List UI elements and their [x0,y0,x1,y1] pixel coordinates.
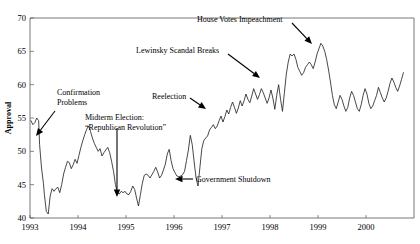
x-tick-label: 1993 [22,222,39,232]
annotation-label-reelection: Reelection [152,92,186,101]
annotation-leader-reelection [190,98,200,105]
y-axis-ticks: 40455055606570 [18,13,35,223]
annotation-label-lewinsky-scandal: Lewinsky Scandal Breaks [136,46,219,55]
x-tick-label: 2000 [358,222,375,232]
annotation-label-government-shutdown: Government Shutdown [196,175,270,184]
annotation-government-shutdown: Government Shutdown [175,175,270,184]
x-tick-label: 1998 [262,222,279,232]
annotation-lewinsky-scandal: Lewinsky Scandal Breaks [136,46,260,78]
y-tick-label: 55 [18,113,27,123]
annotation-leader-house-votes-impeachment [292,23,307,39]
annotation-midterm-election: Midterm Election:“Republican Revolution” [85,113,167,197]
y-tick-label: 70 [18,13,27,23]
annotation-arrowhead-midterm-election [114,190,120,198]
approval-chart: 40455055606570 1993199419951996199719981… [0,0,420,244]
annotations-layer: ConfirmationProblemsMidterm Election:“Re… [36,15,312,197]
annotation-arrowhead-reelection [198,102,206,109]
x-tick-label: 1999 [310,222,327,232]
annotation-house-votes-impeachment: House Votes Impeachment [197,15,312,44]
x-tick-label: 1994 [70,222,88,232]
annotation-leader-lewinsky-scandal [228,54,254,74]
y-tick-label: 65 [18,46,27,56]
annotation-label-midterm-election: Midterm Election:“Republican Revolution” [85,113,167,132]
x-tick-label: 1996 [166,222,183,232]
x-tick-label: 1997 [214,222,231,232]
annotation-reelection: Reelection [152,92,206,109]
y-axis-label: Approval [4,101,13,134]
y-tick-label: 45 [18,180,27,190]
x-axis-ticks: 19931994199519961997199819992000 [22,215,375,232]
y-axis-title: Approval [4,101,13,134]
x-tick-label: 1995 [118,222,135,232]
y-tick-label: 50 [18,146,27,156]
annotation-leader-confirmation-problems [41,111,55,130]
chart-canvas: 40455055606570 1993199419951996199719981… [0,0,420,244]
annotation-label-confirmation-problems: ConfirmationProblems [57,88,100,107]
annotation-arrowhead-lewinsky-scandal [252,71,260,78]
annotation-label-house-votes-impeachment: House Votes Impeachment [197,15,283,24]
y-tick-label: 60 [18,80,27,90]
